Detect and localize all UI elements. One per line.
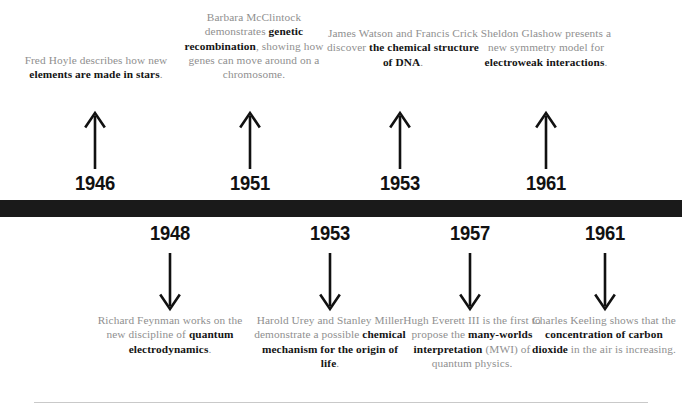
year-label-bottom-1953: 1953 xyxy=(293,222,367,245)
event-top-1946: Fred Hoyle describes how new elements ar… xyxy=(20,53,172,82)
year-label-top-1951: 1951 xyxy=(213,172,287,195)
event-description: Richard Feynman works on the new discipl… xyxy=(94,313,246,356)
year-label-bottom-1961: 1961 xyxy=(568,222,642,245)
arrow-down-icon xyxy=(155,252,185,314)
event-description: Harold Urey and Stanley Miller demonstra… xyxy=(254,313,406,370)
arrow-down-icon xyxy=(315,252,345,314)
year-label-top-1953: 1953 xyxy=(363,172,437,195)
footer-divider xyxy=(34,402,648,403)
arrow-down-icon xyxy=(455,252,485,314)
timeline-axis-bar xyxy=(0,200,682,217)
year-label-bottom-1948: 1948 xyxy=(133,222,207,245)
arrow-up-icon xyxy=(80,108,110,170)
year-label-top-1961: 1961 xyxy=(509,172,583,195)
timeline-infographic: Fred Hoyle describes how new elements ar… xyxy=(0,0,682,416)
event-bottom-1953: Harold Urey and Stanley Miller demonstra… xyxy=(254,313,406,370)
event-description: Fred Hoyle describes how new elements ar… xyxy=(20,53,172,82)
event-bottom-1961: Charles Keeling shows that the concentra… xyxy=(528,313,680,356)
event-top-1953: James Watson and Francis Crick discover … xyxy=(327,26,479,69)
arrow-up-icon xyxy=(235,108,265,170)
event-description: Barbara McClintock demonstrates genetic … xyxy=(178,10,330,81)
event-top-1961: Sheldon Glashow presents a new symmetry … xyxy=(470,26,622,69)
event-description: Sheldon Glashow presents a new symmetry … xyxy=(470,26,622,69)
year-label-top-1946: 1946 xyxy=(58,172,132,195)
event-description: James Watson and Francis Crick discover … xyxy=(327,26,479,69)
event-description: Hugh Everett III is the first to propose… xyxy=(399,313,545,370)
event-bottom-1948: Richard Feynman works on the new discipl… xyxy=(94,313,246,356)
arrow-up-icon xyxy=(531,108,561,170)
year-label-bottom-1957: 1957 xyxy=(433,222,507,245)
arrow-down-icon xyxy=(590,252,620,314)
event-top-1951: Barbara McClintock demonstrates genetic … xyxy=(178,10,330,81)
event-description: Charles Keeling shows that the concentra… xyxy=(528,313,680,356)
arrow-up-icon xyxy=(385,108,415,170)
event-bottom-1957: Hugh Everett III is the first to propose… xyxy=(399,313,545,370)
